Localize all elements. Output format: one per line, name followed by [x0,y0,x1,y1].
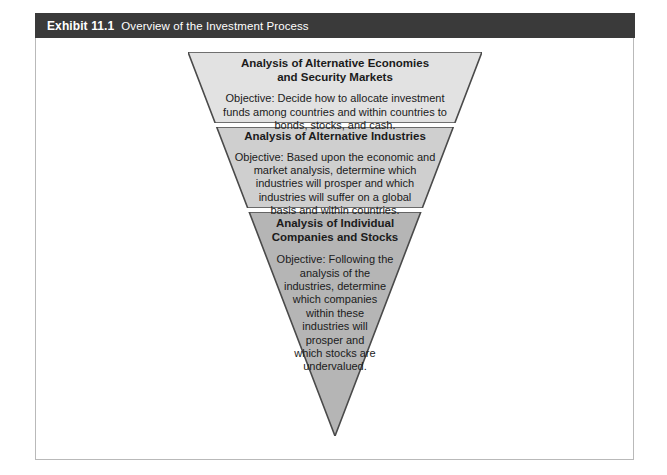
exhibit-number: Exhibit 11.1 [47,19,114,33]
tier-3-title: Analysis of Individual Companies and Sto… [188,217,482,244]
tier-2-body-line3: industries will prosper and which [188,177,482,190]
tier-2-title-line1: Analysis of Alternative Industries [188,130,482,144]
investment-process-funnel: Analysis of Alternative Economies and Se… [188,52,482,436]
tier-2-body-line2: market analysis, determine which [188,164,482,177]
exhibit-title: Overview of the Investment Process [121,20,308,32]
tier-3-body-line1: Objective: Following the [188,253,482,266]
tier-3-body-line8: which stocks are [188,347,482,360]
funnel-tier-companies: Analysis of Individual Companies and Sto… [188,212,482,436]
tier-3-title-line1: Analysis of Individual [188,217,482,231]
tier-3-body-line6: industries will [188,320,482,333]
tier-3-body-line7: prosper and [188,334,482,347]
tier-1-title: Analysis of Alternative Economies and Se… [188,57,482,84]
tier-2-body-line4: industries will suffer on a global [188,191,482,204]
tier-1-body-line1: Objective: Decide how to allocate invest… [188,92,482,105]
tier-2-body-line1: Objective: Based upon the economic and [188,151,482,164]
exhibit-header-bar: Exhibit 11.1 Overview of the Investment … [35,13,635,38]
tier-3-body-line2: analysis of the [188,267,482,280]
tier-3-body-line9: undervalued. [188,360,482,373]
funnel-tier-industries: Analysis of Alternative Industries Objec… [188,127,482,208]
tier-1-title-line2: and Security Markets [188,71,482,85]
tier-2-body: Objective: Based upon the economic and m… [188,151,482,218]
funnel-tier-economies: Analysis of Alternative Economies and Se… [188,52,482,123]
tier-1-body-line2: funds among countries and within countri… [188,106,482,119]
tier-3-body-line5: within these [188,307,482,320]
tier-3-body-line3: industries, determine [188,280,482,293]
tier-3-title-line2: Companies and Stocks [188,231,482,245]
tier-1-title-line1: Analysis of Alternative Economies [188,57,482,71]
tier-3-body-line4: which companies [188,293,482,306]
tier-3-body: Objective: Following the analysis of the… [188,253,482,374]
tier-2-title: Analysis of Alternative Industries [188,130,482,144]
